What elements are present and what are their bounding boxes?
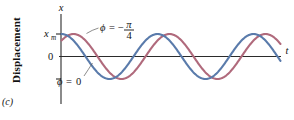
x-axis-symbol: t — [286, 45, 290, 56]
minus-sign-1: − — [118, 22, 124, 33]
phi-symbol-1: ϕ — [100, 22, 106, 33]
shm-phase-constant-figure: Displacement (c) x t x m 0 ϕ = − π — [0, 0, 294, 120]
annotation-phi-zero: ϕ = 0 — [57, 76, 81, 87]
y-tick-label-xm-main: x — [43, 28, 49, 39]
panel-label: (c) — [2, 96, 13, 107]
plot-area: x t x m 0 ϕ = − π 4 ϕ = 0 — [0, 0, 294, 120]
annotation-phi-minus-pi-over-4: ϕ = − π 4 — [100, 19, 134, 42]
phi-symbol-2: ϕ — [57, 76, 63, 87]
y-tick-label-zero: 0 — [48, 51, 53, 62]
y-tick-label-xm: x m — [43, 28, 56, 42]
y-tick-label-xm-subscript: m — [51, 34, 56, 42]
leader-line-phi-minus-pi-over-4 — [87, 28, 99, 34]
fraction-denominator-4: 4 — [126, 30, 132, 41]
phi-value-zero: 0 — [76, 76, 81, 87]
y-axis-title: Displacement — [10, 10, 22, 90]
leader-line-phi-zero — [84, 63, 93, 76]
fraction-numerator-pi: π — [126, 19, 132, 30]
y-axis-symbol: x — [58, 2, 64, 13]
equals-sign-1: = — [109, 22, 115, 33]
equals-sign-2: = — [66, 76, 72, 87]
